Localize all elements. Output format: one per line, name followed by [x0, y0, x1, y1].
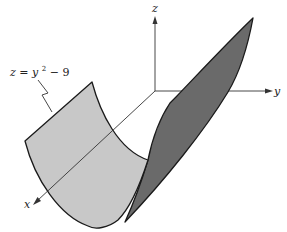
z-axis-arrowhead-icon [153, 16, 158, 24]
x-axis-label: x [24, 198, 31, 211]
parabolic-cylinder-figure: z y x z = y 2 − 9 [0, 0, 287, 232]
surface-dark-face [125, 18, 253, 222]
equation-equals: = [19, 66, 32, 79]
equation-rest: − 9 [50, 66, 70, 79]
y-axis-arrowhead-icon [265, 89, 273, 94]
z-axis-label: z [151, 2, 158, 15]
y-axis-label: y [273, 85, 281, 98]
equation-exponent: 2 [42, 65, 46, 73]
label-leader-line [38, 80, 52, 112]
equation-label: z = y 2 − 9 [9, 61, 69, 79]
equation-z: z [9, 66, 16, 79]
equation-y: y [31, 66, 39, 79]
